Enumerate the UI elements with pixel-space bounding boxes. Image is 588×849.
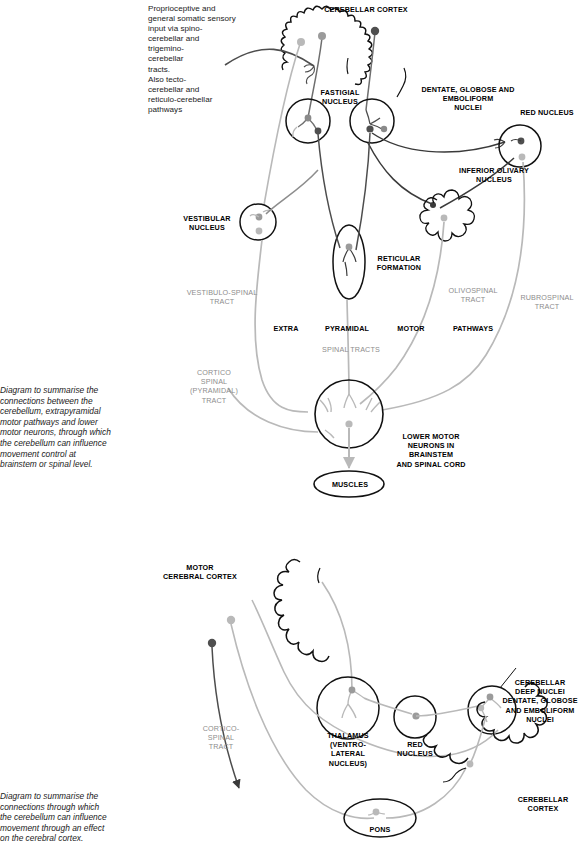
label-corticospinal-pyramidal-tract: CORTICO SPINAL (PYRAMIDAL) TRACT: [178, 368, 250, 405]
corticospinal-tract-axon: [212, 647, 239, 788]
cortical-cell-body: [318, 32, 326, 40]
label-muscles: MUSCLES: [320, 480, 380, 489]
rubro-thalamic-fibre: [364, 698, 412, 714]
label-vestibulospinal-tract: VESTIBULO-SPINAL TRACT: [176, 288, 268, 306]
label-band-spinal-tracts: SPINAL TRACTS: [306, 345, 396, 354]
label-corticospinal-tract-bottom: CORTICO- SPINAL TRACT: [190, 724, 252, 752]
label-vestibular-nucleus: VESTIBULAR NUCLEUS: [173, 214, 241, 232]
label-fastigial-nucleus: FASTIGIAL NUCLEUS: [306, 88, 374, 106]
label-red-nucleus: RED NUCLEUS: [508, 108, 586, 117]
ponto-cerebellar-fibre: [386, 768, 466, 818]
olivo-cerebellar-tract: [368, 143, 432, 204]
fastigial-neuron: [298, 118, 317, 130]
caption-top-diagram: Diagram to summarise the connections bet…: [0, 385, 140, 470]
cortical-cell-body: [227, 616, 235, 624]
olivospinal-tract-line: [360, 222, 444, 404]
reticular-neuron: [343, 248, 356, 276]
diagram-canvas: Proprioceptive and general somatic senso…: [0, 0, 588, 849]
dentate-neuron: [366, 110, 382, 129]
thalamo-cortical-fibre: [322, 582, 352, 690]
red-nucleus-circle: [499, 125, 541, 167]
label-band-pathways: PATHWAYS: [440, 324, 506, 333]
motor-cerebral-cortex-outline: [274, 560, 329, 662]
reticular-formation-outline: [333, 225, 365, 299]
cerebellar-cortex-outline: [281, 6, 372, 84]
label-band-extra: EXTRA: [264, 324, 308, 333]
label-olivospinal-tract: OLIVOSPINAL TRACT: [436, 286, 510, 304]
label-cerebellar-cortex: CEREBELLAR CORTEX: [306, 5, 426, 14]
label-thalamus-ventrolateral-nucleus: THALAMUS (VENTRO- LATERAL NUCLEUS): [305, 731, 391, 768]
lower-motor-neuron-circle: [315, 380, 383, 448]
label-pons: PONS: [356, 825, 404, 834]
lower-motor-neuron-dendrites: [320, 394, 380, 438]
thalamic-neuron: [342, 690, 364, 718]
red-nucleus-circle-bottom: [394, 696, 436, 738]
proprioceptive-input-note: Proprioceptive and general somatic senso…: [148, 4, 268, 115]
label-rubrospinal-tract: RUBROSPINAL TRACT: [512, 293, 582, 311]
dentato-rubral-fibre-bottom: [416, 706, 478, 716]
thalamus-circle: [317, 677, 379, 739]
dentato-rubral-tract: [372, 133, 505, 152]
label-band-motor: MOTOR: [386, 324, 436, 333]
label-cerebellar-cortex-bottom: CEREBELLAR CORTEX: [505, 795, 581, 813]
vestibular-nucleus-circle: [240, 204, 276, 240]
label-inferior-olivary-nucleus: INFERIOR OLIVARY NUCLEUS: [443, 166, 545, 184]
descending-dark-tracts: [318, 133, 370, 250]
label-lower-motor-neurons: LOWER MOTOR NEURONS IN BRAINSTEM AND SPI…: [381, 432, 481, 469]
label-reticular-formation: RETICULAR FORMATION: [368, 254, 430, 272]
top-panel-art: [225, 6, 541, 497]
cortico-pontine-fibre: [231, 624, 374, 818]
label-red-nucleus-bottom: RED NUCLEUS: [386, 740, 444, 758]
label-band-pyramidal: PYRAMIDAL: [311, 324, 383, 333]
inferior-olivary-nucleus-outline: [420, 190, 475, 241]
caption-bottom-diagram: Diagram to summarise the connections thr…: [0, 791, 150, 844]
label-motor-cerebral-cortex: MOTOR CEREBRAL CORTEX: [158, 563, 242, 581]
cerebello-vestibular-fibre: [264, 38, 305, 205]
cortical-cell-body: [371, 27, 379, 35]
label-cerebellar-deep-nuclei: CEREBELLAR DEEP NUCLEI DENTATE, GLOBOSE …: [494, 678, 586, 724]
cortical-cell-body: [208, 639, 216, 647]
